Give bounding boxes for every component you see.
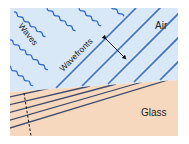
refraction-diagram: Waves Wavefronts Air Glass [0,0,189,144]
glass-label: Glass [141,107,167,118]
air-label: Air [155,20,168,31]
